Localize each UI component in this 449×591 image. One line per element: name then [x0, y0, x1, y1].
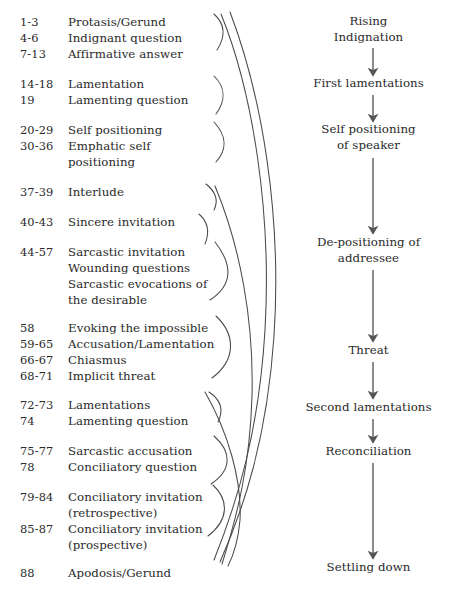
move-label: Affirmative answer: [68, 46, 183, 62]
move-label: Emphatic self: [68, 138, 151, 154]
move-row: Wounding questions: [0, 260, 215, 276]
move-row: 59-65 Accusation/Lamentation: [0, 336, 215, 352]
move-row: 4-6 Indignant question: [0, 30, 215, 46]
verse-range: 72-73: [20, 397, 53, 413]
stage-line: Second lamentations: [288, 400, 449, 416]
brace-group-1: [214, 14, 223, 50]
move-label: Chiasmus: [68, 352, 127, 368]
move-row: (prospective): [0, 537, 215, 553]
move-label: Evoking the impossible: [68, 320, 208, 336]
stage-rising-indignation: Rising Indignation: [288, 14, 449, 45]
move-label: Conciliatory invitation: [68, 489, 203, 505]
brace-group-2: [214, 76, 223, 114]
rhetorical-structure-diagram: 1-3 Protasis/Gerund 4-6 Indignant questi…: [0, 0, 449, 591]
move-row: 75-77 Sarcastic accusation: [0, 443, 215, 459]
stage-settling-down: Settling down: [288, 560, 449, 576]
move-row: 40-43 Sincere invitation: [0, 214, 215, 230]
move-row: 19 Lamenting question: [0, 92, 215, 108]
move-label: (prospective): [68, 537, 148, 553]
verse-range: 14-18: [20, 76, 53, 92]
move-row: 78 Conciliatory question: [0, 459, 215, 475]
verse-range: 59-65: [20, 336, 53, 352]
verse-range: 7-13: [20, 46, 46, 62]
move-row: 58 Evoking the impossible: [0, 320, 215, 336]
move-label: Conciliatory invitation: [68, 521, 203, 537]
move-row: 30-36 Emphatic self: [0, 138, 215, 154]
stage-line: Self positioning: [288, 122, 449, 138]
verse-range: 37-39: [20, 184, 53, 200]
verse-range: 19: [20, 92, 35, 108]
move-row: 7-13 Affirmative answer: [0, 46, 215, 62]
move-row: 68-71 Implicit threat: [0, 368, 215, 384]
stage-de-positioning: De-positioning of addressee: [288, 235, 449, 266]
verse-range: 74: [20, 413, 35, 429]
span-curve-inner: [215, 186, 252, 564]
move-row: the desirable: [0, 292, 215, 308]
move-row: 72-73 Lamentations: [0, 397, 215, 413]
verse-range: 20-29: [20, 122, 53, 138]
move-label: Sarcastic accusation: [68, 443, 192, 459]
move-label: Sarcastic invitation: [68, 244, 185, 260]
move-label: Lamenting question: [68, 413, 188, 429]
move-row: 66-67 Chiasmus: [0, 352, 215, 368]
stage-line: First lamentations: [288, 76, 449, 92]
verse-range: 78: [20, 459, 35, 475]
verse-range: 88: [20, 565, 35, 581]
move-row: Sarcastic evocations of: [0, 276, 215, 292]
move-row: (retrospective): [0, 505, 215, 521]
stage-self-positioning: Self positioning of speaker: [288, 122, 449, 153]
stage-line: of speaker: [288, 138, 449, 154]
stage-line: addressee: [288, 251, 449, 267]
verse-range: 79-84: [20, 489, 53, 505]
move-label: Protasis/Gerund: [68, 14, 166, 30]
span-curve-outer: [214, 14, 266, 560]
move-label: the desirable: [68, 292, 147, 308]
stage-line: Indignation: [288, 30, 449, 46]
move-label: Conciliatory question: [68, 459, 197, 475]
move-row: 74 Lamenting question: [0, 413, 215, 429]
move-label: Lamentation: [68, 76, 144, 92]
verse-range: 85-87: [20, 521, 53, 537]
move-row: 14-18 Lamentation: [0, 76, 215, 92]
verse-range: 68-71: [20, 368, 53, 384]
stage-line: Reconciliation: [288, 444, 449, 460]
stage-reconciliation: Reconciliation: [288, 444, 449, 460]
verse-range: 40-43: [20, 214, 53, 230]
stage-line: Settling down: [288, 560, 449, 576]
move-label: Wounding questions: [68, 260, 190, 276]
verse-range: 4-6: [20, 30, 39, 46]
verse-range: 44-57: [20, 244, 53, 260]
move-row: 37-39 Interlude: [0, 184, 215, 200]
move-row: 44-57 Sarcastic invitation: [0, 244, 215, 260]
move-label: Self positioning: [68, 122, 162, 138]
move-label: (retrospective): [68, 505, 157, 521]
move-label: Apodosis/Gerund: [68, 565, 171, 581]
move-label: Sincere invitation: [68, 214, 175, 230]
move-label: Interlude: [68, 184, 124, 200]
move-row: 20-29 Self positioning: [0, 122, 215, 138]
move-row: positioning: [0, 154, 215, 170]
stage-line: Threat: [288, 343, 449, 359]
stage-line: Rising: [288, 14, 449, 30]
move-label: Accusation/Lamentation: [68, 336, 214, 352]
stage-threat: Threat: [288, 343, 449, 359]
move-label: positioning: [68, 154, 135, 170]
left-column-moves: 1-3 Protasis/Gerund 4-6 Indignant questi…: [0, 0, 215, 591]
span-curve-middle: [220, 12, 276, 562]
move-row: 88 Apodosis/Gerund: [0, 565, 215, 581]
stage-first-lamentations: First lamentations: [288, 76, 449, 92]
move-row: 1-3 Protasis/Gerund: [0, 14, 215, 30]
verse-range: 1-3: [20, 14, 39, 30]
move-label: Lamenting question: [68, 92, 188, 108]
move-label: Sarcastic evocations of: [68, 276, 207, 292]
move-row: 85-87 Conciliatory invitation: [0, 521, 215, 537]
move-row: 79-84 Conciliatory invitation: [0, 489, 215, 505]
brace-group-3: [214, 122, 224, 162]
verse-range: 75-77: [20, 443, 53, 459]
verse-range: 58: [20, 320, 35, 336]
stage-second-lamentations: Second lamentations: [288, 400, 449, 416]
verse-range: 66-67: [20, 352, 53, 368]
stage-line: De-positioning of: [288, 235, 449, 251]
move-label: Implicit threat: [68, 368, 155, 384]
right-column-stages: Rising Indignation First lamentations Se…: [288, 0, 449, 591]
